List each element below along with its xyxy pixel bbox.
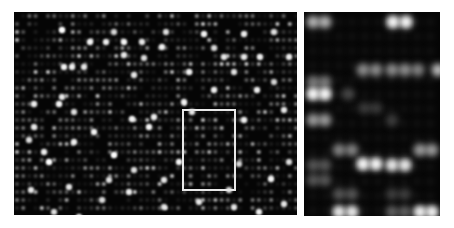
fluorescent-spot: [34, 166, 38, 170]
fluorescent-spot: [226, 110, 230, 114]
fluorescent-spot: [77, 22, 81, 26]
fluorescent-spot: [89, 78, 93, 82]
fluorescent-spot: [164, 94, 168, 98]
fluorescent-spot: [207, 142, 211, 146]
fluorescent-spot: [335, 47, 343, 55]
fluorescent-spot: [182, 78, 186, 82]
fluorescent-spot: [102, 118, 106, 122]
fluorescent-spot: [170, 22, 174, 26]
fluorescent-spot: [114, 110, 118, 114]
fluorescent-spot: [170, 110, 174, 114]
fluorescent-spot: [195, 110, 199, 114]
fluorescent-spot: [158, 134, 162, 138]
fluorescent-spot: [282, 14, 286, 18]
fluorescent-spot: [182, 46, 186, 50]
fluorescent-spot: [201, 126, 205, 130]
fluorescent-spot: [244, 142, 248, 146]
fluorescent-spot: [201, 190, 205, 194]
fluorescent-spot: [244, 182, 248, 186]
fluorescent-spot: [195, 30, 199, 34]
fluorescent-spot: [164, 134, 168, 138]
fluorescent-spot: [21, 182, 25, 186]
fluorescent-spot: [40, 70, 44, 74]
fluorescent-spot: [108, 70, 112, 74]
fluorescent-spot: [15, 134, 19, 138]
fluorescent-spot: [58, 158, 62, 162]
fluorescent-spot: [288, 118, 292, 122]
fluorescent-spot: [83, 158, 87, 162]
fluorescent-spot: [370, 64, 383, 77]
fluorescent-spot: [27, 182, 31, 186]
fluorescent-spot: [251, 102, 255, 106]
fluorescent-spot: [207, 14, 211, 18]
fluorescent-spot: [164, 22, 168, 26]
fluorescent-spot: [226, 102, 230, 106]
fluorescent-spot: [89, 62, 93, 66]
fluorescent-spot: [151, 182, 155, 186]
fluorescent-spot: [114, 46, 118, 50]
fluorescent-spot: [257, 182, 261, 186]
fluorescent-spot: [83, 102, 87, 106]
fluorescent-spot: [145, 38, 149, 42]
fluorescent-spot: [238, 150, 242, 154]
fluorescent-spot: [182, 198, 186, 202]
fluorescent-spot: [114, 206, 118, 210]
fluorescent-spot: [244, 46, 248, 50]
fluorescent-spot: [58, 118, 62, 122]
fluorescent-spot: [52, 70, 56, 74]
fluorescent-spot: [294, 190, 297, 194]
fluorescent-spot: [108, 54, 112, 58]
fluorescent-spot: [21, 110, 25, 114]
fluorescent-spot: [40, 86, 44, 90]
fluorescent-spot: [40, 158, 44, 162]
fluorescent-spot: [361, 18, 369, 26]
fluorescent-spot: [114, 182, 118, 186]
fluorescent-spot: [139, 174, 143, 178]
fluorescent-spot: [158, 102, 162, 106]
fluorescent-spot: [89, 142, 93, 146]
fluorescent-spot: [282, 38, 286, 42]
fluorescent-spot: [282, 78, 286, 82]
fluorescent-spot: [29, 188, 33, 192]
fluorescent-spot: [294, 126, 297, 130]
fluorescent-spot: [251, 22, 255, 26]
fluorescent-spot: [213, 30, 217, 34]
fluorescent-spot: [287, 55, 291, 59]
fluorescent-spot: [263, 62, 267, 66]
fluorescent-spot: [77, 190, 81, 194]
fluorescent-spot: [34, 198, 38, 202]
fluorescent-spot: [127, 62, 131, 66]
fluorescent-spot: [40, 182, 44, 186]
fluorescent-spot: [96, 174, 100, 178]
fluorescent-spot: [400, 105, 408, 113]
fluorescent-spot: [15, 70, 19, 74]
fluorescent-spot: [164, 110, 168, 114]
fluorescent-spot: [282, 174, 286, 178]
fluorescent-spot: [140, 40, 144, 44]
fluorescent-spot: [139, 190, 143, 194]
fluorescent-spot: [201, 166, 205, 170]
fluorescent-spot: [319, 76, 332, 89]
fluorescent-spot: [220, 70, 224, 74]
fluorescent-spot: [40, 38, 44, 42]
fluorescent-spot: [387, 178, 395, 186]
fluorescent-spot: [195, 142, 199, 146]
fluorescent-spot: [77, 166, 81, 170]
fluorescent-spot: [52, 62, 56, 66]
fluorescent-spot: [21, 46, 25, 50]
fluorescent-spot: [127, 190, 131, 194]
fluorescent-spot: [426, 33, 434, 41]
fluorescent-spot: [232, 198, 236, 202]
fluorescent-spot: [374, 47, 382, 55]
fluorescent-spot: [32, 102, 36, 106]
fluorescent-spot: [182, 150, 186, 154]
fluorescent-spot: [120, 142, 124, 146]
fluorescent-spot: [58, 38, 62, 42]
fluorescent-spot: [164, 142, 168, 146]
fluorescent-spot: [151, 38, 155, 42]
fluorescent-spot: [96, 54, 100, 58]
fluorescent-spot: [133, 134, 137, 138]
fluorescent-spot: [238, 86, 242, 90]
fluorescent-spot: [282, 94, 286, 98]
fluorescent-spot: [114, 62, 118, 66]
